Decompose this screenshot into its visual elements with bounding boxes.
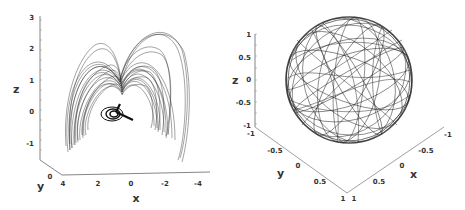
y-tick-1: 1 [341, 195, 346, 203]
y-tick-0: 0 [296, 162, 301, 170]
y-axis-label: y [37, 180, 44, 193]
z-tick-1: 1 [246, 31, 251, 39]
z-tick-neg1: -1 [243, 122, 251, 130]
y-tick-0: 0 [48, 173, 53, 181]
x-tick-0: 0 [400, 162, 405, 170]
x-tick-1: 1 [352, 195, 357, 203]
y-tick-neg1: -1 [247, 130, 255, 138]
y-axis-label: y [277, 167, 284, 180]
x-tick-2: 2 [96, 180, 101, 188]
x-tick-4: 4 [61, 180, 66, 188]
right-sphere-plot: 1 0.5 0 -0.5 -1 z -1 -0.5 0 0.5 1 y -1 -… [232, 0, 465, 210]
z-tick-0: 0 [246, 76, 251, 84]
z-tick-0: 0 [29, 108, 34, 116]
z-axis-label: z [232, 74, 238, 87]
z-axis-label: z [13, 83, 19, 96]
z-tick-3: 3 [29, 14, 34, 22]
x-axis-label: x [132, 192, 139, 205]
sphere-trajectory [269, 0, 429, 160]
y-tick-neg0.5: -0.5 [267, 147, 282, 155]
x-tick-neg0.5: -0.5 [418, 147, 433, 155]
x-tick-0.5: 0.5 [373, 178, 386, 186]
attractor-center-spiral [101, 104, 133, 121]
left-plot-svg: 3 2 1 0 -1 z 0 y 4 2 0 -2 -4 x [0, 0, 232, 210]
z-tick-neg0.5: -0.5 [236, 99, 251, 107]
attractor-trajectory [65, 32, 189, 162]
x-axis [347, 127, 444, 193]
left-attractor-plot: 3 2 1 0 -1 z 0 y 4 2 0 -2 -4 x [0, 0, 232, 210]
x-tick-neg2: -2 [161, 180, 169, 188]
right-plot-svg: 1 0.5 0 -0.5 -1 z -1 -0.5 0 0.5 1 y -1 -… [232, 0, 465, 210]
z-tick-0.5: 0.5 [239, 54, 252, 62]
z-tick-1: 1 [29, 77, 34, 85]
x-tick-neg1: -1 [444, 131, 452, 139]
x-axis-label: x [410, 168, 417, 181]
x-tick-0: 0 [129, 180, 134, 188]
y-tick-0.5: 0.5 [314, 178, 327, 186]
z-tick-2: 2 [29, 45, 34, 53]
x-tick-neg4: -4 [194, 180, 202, 188]
z-tick-neg1: -1 [26, 140, 34, 148]
x-axis [62, 172, 210, 175]
